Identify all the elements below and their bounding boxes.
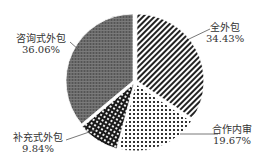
slice-percent: 19.67%	[212, 135, 252, 146]
slice-name: 合作内审	[212, 124, 252, 135]
slice-percent: 36.06%	[16, 44, 66, 55]
slice-name: 全外包	[206, 22, 244, 33]
slice-name: 咨询式外包	[16, 33, 66, 44]
slice-percent: 9.84%	[13, 143, 63, 154]
slice-label-buchongshi: 补充式外包 9.84%	[13, 132, 63, 154]
slice-label-zixunshi: 咨询式外包 36.06%	[16, 33, 66, 55]
slice-label-quanwaibao: 全外包 34.43%	[206, 22, 244, 44]
slice-percent: 34.43%	[206, 33, 244, 44]
slice-label-hezuoneishen: 合作内审 19.67%	[212, 124, 252, 146]
slice-name: 补充式外包	[13, 132, 63, 143]
